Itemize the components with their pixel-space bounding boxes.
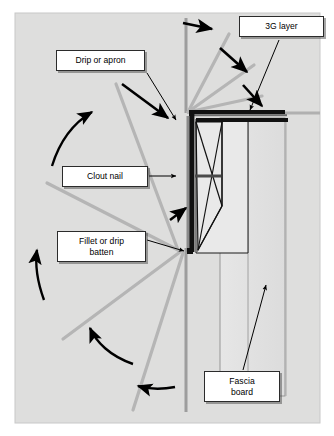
callout-drip-or-apron[interactable]: Drip or apron [56, 50, 145, 71]
callout-clout-nail-text: Clout nail [87, 171, 123, 182]
callout-3g-layer-text: 3G layer [265, 21, 297, 32]
callout-3g-layer[interactable]: 3G layer [239, 16, 324, 37]
callout-fascia-line-2: board [229, 387, 254, 398]
diagram-figure: 3G layer Drip or apron Clout nail Fillet… [0, 0, 334, 436]
callout-clout-nail[interactable]: Clout nail [62, 166, 148, 187]
clout-nail-mark [195, 175, 221, 178]
callout-fascia-board[interactable]: Fascia board [204, 371, 280, 402]
callout-fillet-or-drip-batten[interactable]: Fillet or drip batten [57, 231, 146, 262]
callout-fillet-line-2: batten [79, 247, 124, 258]
callout-drip-or-apron-text: Drip or apron [75, 55, 125, 66]
callout-fillet-line-1: Fillet or drip [79, 236, 124, 247]
callout-fascia-line-1: Fascia [229, 376, 254, 387]
diagram-canvas [0, 0, 334, 436]
